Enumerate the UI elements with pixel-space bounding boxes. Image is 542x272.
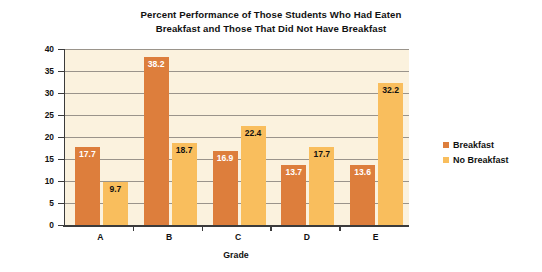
y-axis-tick-label: 40 <box>28 45 54 53</box>
x-axis-category-label: E <box>356 233 396 242</box>
y-axis-tick-label: 25 <box>28 111 54 119</box>
legend-swatch-icon <box>443 142 449 148</box>
bar-b-no-breakfast: 18.7 <box>172 143 197 225</box>
x-axis-category-label: B <box>149 233 189 242</box>
chart-title: Percent Performance of Those Students Wh… <box>0 8 542 35</box>
bar-d-breakfast: 13.7 <box>281 165 306 225</box>
chart-title-line-1: Percent Performance of Those Students Wh… <box>0 8 542 22</box>
bar-value-label: 38.2 <box>144 60 169 69</box>
y-axis-tick-label: 0 <box>28 221 54 229</box>
x-axis-tick-mark <box>202 226 203 231</box>
x-axis-tick-mark <box>339 226 340 231</box>
legend-label: Breakfast <box>453 140 494 150</box>
bar-value-label: 13.6 <box>350 168 375 177</box>
bar-value-label: 9.7 <box>103 185 128 194</box>
bar-c-breakfast: 16.9 <box>213 151 238 225</box>
y-axis-tick-label: 10 <box>28 177 54 185</box>
y-axis-tick-label: 15 <box>28 155 54 163</box>
legend-swatch-icon <box>443 157 449 163</box>
legend-item: No Breakfast <box>443 152 509 167</box>
bar-b-breakfast: 38.2 <box>144 57 169 225</box>
bar-a-breakfast: 17.7 <box>75 147 100 225</box>
chart-title-line-2: Breakfast and Those That Did Not Have Br… <box>0 22 542 36</box>
plot-area: 17.79.738.218.716.922.413.717.713.632.2 <box>64 49 409 225</box>
chart-legend: BreakfastNo Breakfast <box>443 137 509 167</box>
legend-label: No Breakfast <box>453 155 509 165</box>
bar-value-label: 18.7 <box>172 146 197 155</box>
y-axis-tick-label: 30 <box>28 89 54 97</box>
x-axis-category-label: C <box>218 233 258 242</box>
y-axis-tick-label: 20 <box>28 133 54 141</box>
bar-d-no-breakfast: 17.7 <box>309 147 334 225</box>
bar-value-label: 32.2 <box>378 86 403 95</box>
bar-value-label: 22.4 <box>241 129 266 138</box>
x-axis-line <box>63 225 409 227</box>
bar-value-label: 13.7 <box>281 168 306 177</box>
y-axis-tick-label: 35 <box>28 67 54 75</box>
legend-item: Breakfast <box>443 137 509 152</box>
x-axis-tick-mark <box>133 226 134 231</box>
bar-value-label: 17.7 <box>309 150 334 159</box>
bar-value-label: 16.9 <box>213 154 238 163</box>
x-axis-title: Grade <box>64 250 408 260</box>
bar-a-no-breakfast: 9.7 <box>103 182 128 225</box>
bar-value-label: 17.7 <box>75 150 100 159</box>
bars-layer: 17.79.738.218.716.922.413.717.713.632.2 <box>65 49 409 225</box>
x-axis-category-label: D <box>287 233 327 242</box>
x-axis-category-label: A <box>80 233 120 242</box>
bar-c-no-breakfast: 22.4 <box>241 126 266 225</box>
bar-e-no-breakfast: 32.2 <box>378 83 403 225</box>
bar-chart: Percent Performance of Those Students Wh… <box>0 0 542 272</box>
y-axis-tick-label: 5 <box>28 199 54 207</box>
x-axis-tick-mark <box>270 226 271 231</box>
bar-e-breakfast: 13.6 <box>350 165 375 225</box>
y-axis-title: Percent <box>0 92 1 124</box>
